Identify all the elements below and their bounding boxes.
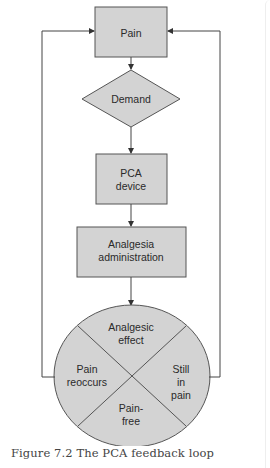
svg-text:Pain: Pain xyxy=(76,363,97,375)
svg-text:reoccurs: reoccurs xyxy=(67,376,107,388)
svg-text:Analgesia: Analgesia xyxy=(108,238,154,250)
svg-text:in: in xyxy=(177,376,185,388)
svg-text:Pain-: Pain- xyxy=(119,402,144,414)
svg-text:free: free xyxy=(122,415,140,427)
svg-text:Still: Still xyxy=(173,363,190,375)
node-analgesia-administration: Analgesia administration xyxy=(77,227,186,277)
svg-text:Analgesic: Analgesic xyxy=(108,321,154,333)
pca-feedback-loop-diagram: Pain Demand PCA device Analgesia adminis… xyxy=(0,0,270,446)
svg-text:Pain: Pain xyxy=(120,27,141,39)
quadrant-bottom-pain-free: Pain- free xyxy=(119,402,144,427)
svg-text:Demand: Demand xyxy=(111,93,151,105)
svg-text:pain: pain xyxy=(171,389,191,401)
node-demand: Demand xyxy=(82,70,180,127)
node-pca-device: PCA device xyxy=(96,154,167,204)
svg-text:PCA: PCA xyxy=(120,167,142,179)
svg-text:device: device xyxy=(116,180,147,192)
figure-caption: Figure 7.2 The PCA feedback loop xyxy=(11,446,214,460)
svg-text:administration: administration xyxy=(98,251,164,263)
node-outcome-circle: Analgesic effect Pain reoccurs Still in … xyxy=(54,305,210,446)
svg-text:effect: effect xyxy=(118,334,144,346)
node-pain: Pain xyxy=(95,7,167,57)
